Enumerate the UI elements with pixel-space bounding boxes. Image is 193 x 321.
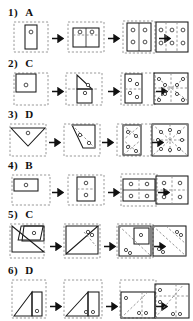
problem-1-number: 1) <box>8 6 18 18</box>
problem-1-answer: A <box>25 6 33 18</box>
problem-1-stage-4 <box>154 20 190 54</box>
problem-1-stage-2 <box>66 20 106 54</box>
problem-3-stage-2 <box>62 122 104 158</box>
problem-4-arrow-2 <box>108 188 120 198</box>
problem-6-answer: D <box>25 264 33 276</box>
problem-4-arrow-1 <box>52 188 64 198</box>
problem-2-stage-4 <box>152 71 190 107</box>
problem-3: 3)D <box>0 108 193 158</box>
problem-5: 5)C <box>0 208 193 260</box>
problem-6-stage-1 <box>10 278 50 320</box>
problem-6-stage-4 <box>152 278 192 320</box>
problem-6-number: 6) <box>8 264 18 276</box>
problem-6-arrow-1 <box>50 302 62 312</box>
problem-6: 6)D <box>0 264 193 321</box>
problem-5-number: 5) <box>8 208 18 220</box>
problem-3-stage-1 <box>8 122 50 158</box>
problem-1-heading: 1)A <box>8 6 34 18</box>
problem-1: 1)A <box>0 6 193 54</box>
problem-3-stage-3 <box>116 122 152 158</box>
worksheet-sheet: 1)A <box>0 0 193 321</box>
problem-5-stage-4 <box>150 222 190 260</box>
problem-5-answer: C <box>25 208 33 220</box>
problem-4-stage-4 <box>154 173 190 207</box>
problem-5-arrow-1 <box>50 242 62 252</box>
problem-2-answer: C <box>25 57 33 69</box>
problem-3-number: 3) <box>8 108 18 120</box>
problem-2-arrow-2 <box>108 87 120 97</box>
problem-4-number: 4) <box>8 159 18 171</box>
problem-5-stage-1 <box>8 222 48 260</box>
problem-3-heading: 3)D <box>8 108 34 120</box>
problem-2-number: 2) <box>8 57 18 69</box>
problem-3-answer: D <box>25 108 33 120</box>
problem-4: 4)B <box>0 159 193 207</box>
problem-5-heading: 5)C <box>8 208 34 220</box>
problem-5-stage-2 <box>62 222 104 260</box>
problem-2: 2)C <box>0 57 193 107</box>
problem-2-heading: 2)C <box>8 57 34 69</box>
problem-1-stage-1 <box>12 20 50 54</box>
problem-4-heading: 4)B <box>8 159 33 171</box>
problem-6-heading: 6)D <box>8 264 34 276</box>
problem-6-stage-2 <box>62 278 106 320</box>
problem-4-answer: B <box>25 159 33 171</box>
problem-4-stage-2 <box>66 173 106 207</box>
problem-6-arrow-2 <box>106 302 118 312</box>
problem-4-stage-3 <box>120 173 158 207</box>
problem-3-stage-4 <box>150 122 190 158</box>
problem-2-arrow-1 <box>52 87 64 97</box>
problem-1-arrow-1 <box>52 34 64 44</box>
problem-5-arrow-2 <box>104 242 116 252</box>
problem-2-stage-2 <box>64 71 106 107</box>
problem-1-stage-3 <box>122 20 156 54</box>
problem-3-arrow-2 <box>102 138 114 148</box>
problem-4-stage-1 <box>10 173 54 207</box>
problem-3-arrow-1 <box>49 138 61 148</box>
problem-2-stage-3 <box>120 71 156 107</box>
problem-1-arrow-2 <box>108 34 120 44</box>
problem-2-stage-1 <box>12 71 52 107</box>
